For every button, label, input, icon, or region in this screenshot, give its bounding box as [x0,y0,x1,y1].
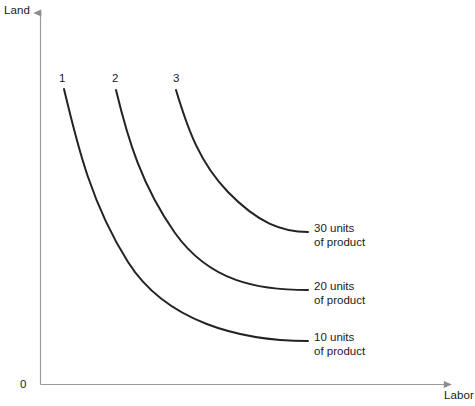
isoquant-curve-1 [64,89,308,341]
curve-annotation-30-line2: of product [314,236,365,250]
y-axis-label: Land [4,4,30,17]
curve-number-3: 3 [173,72,179,85]
x-axis-label: Labor [444,389,474,402]
origin-label: 0 [20,378,26,391]
diagram-canvas [0,0,475,406]
curve-annotation-10-line2: of product [314,345,365,359]
curve-annotation-20-line2: of product [314,294,365,308]
isoquant-figure: Land Labor 0 1 2 3 30 units of product 2… [0,0,475,406]
curve-annotation-20-line1: 20 units [314,280,354,292]
curve-annotation-20: 20 units of product [314,280,365,307]
isoquant-curve-3 [176,90,308,232]
curve-annotation-30-line1: 30 units [314,222,354,234]
curve-number-2: 2 [112,72,118,85]
isoquant-curve-2 [116,90,308,290]
curve-annotation-10: 10 units of product [314,331,365,358]
curve-annotation-30: 30 units of product [314,222,365,249]
curve-annotation-10-line1: 10 units [314,331,354,343]
curve-number-1: 1 [59,72,65,85]
